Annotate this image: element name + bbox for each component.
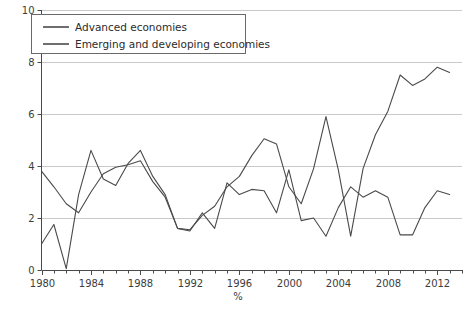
x-tick-label: 1992 — [178, 278, 203, 289]
x-tick-label: 2000 — [277, 278, 302, 289]
x-axis-label: % — [233, 291, 243, 302]
x-tick-label: 2012 — [425, 278, 450, 289]
x-tick-label: 1988 — [128, 278, 153, 289]
legend-label-2: Emerging and developing economies — [75, 38, 270, 50]
x-axis-ticks: 198019841988199219962000200420082012 — [30, 270, 463, 289]
y-tick-label: 4 — [28, 161, 34, 172]
x-tick-label: 2008 — [376, 278, 401, 289]
x-tick-label: 1996 — [227, 278, 252, 289]
chart-legend: Advanced economiesEmerging and developin… — [32, 15, 270, 54]
line-chart: 0246810 19801984198819921996200020042008… — [0, 0, 470, 311]
y-tick-label: 6 — [28, 109, 34, 120]
chart-container: 0246810 19801984198819921996200020042008… — [0, 0, 470, 311]
x-tick-label: 2004 — [326, 278, 351, 289]
y-tick-label: 2 — [28, 213, 34, 224]
x-tick-label: 1980 — [30, 278, 55, 289]
y-tick-label: 8 — [28, 57, 34, 68]
data-series — [42, 67, 450, 269]
series-line-2 — [42, 67, 450, 236]
y-tick-label: 0 — [28, 265, 34, 276]
legend-label-1: Advanced economies — [75, 21, 187, 33]
series-line-1 — [42, 150, 450, 268]
x-tick-label: 1984 — [79, 278, 104, 289]
